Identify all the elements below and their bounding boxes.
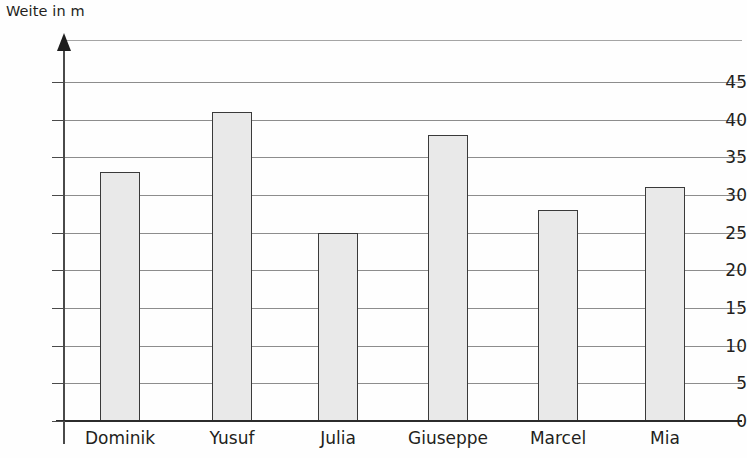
- y-axis-tick-label: 5: [701, 373, 747, 393]
- gridline: [64, 383, 742, 384]
- y-axis-tick-label: 35: [701, 147, 747, 167]
- bar: [212, 112, 252, 421]
- y-axis-tick: [52, 82, 65, 83]
- x-axis-line: [56, 420, 742, 422]
- bar: [428, 135, 468, 421]
- gridline: [64, 346, 742, 347]
- y-axis-tick: [52, 233, 65, 234]
- plot-area: [64, 40, 742, 421]
- y-axis-tick: [52, 270, 65, 271]
- x-axis-tick-label: Marcel: [530, 428, 586, 448]
- y-axis-tick-label: 25: [701, 223, 747, 243]
- gridline: [64, 270, 742, 271]
- y-axis-tick: [52, 157, 65, 158]
- gridline-top: [64, 40, 742, 41]
- x-axis-tick-label: Yusuf: [210, 428, 255, 448]
- x-axis-tick-label: Giuseppe: [408, 428, 488, 448]
- gridline: [64, 82, 742, 83]
- gridline: [64, 157, 742, 158]
- y-axis-tick-label: 40: [701, 110, 747, 130]
- y-axis-tick: [52, 383, 65, 384]
- y-axis-tick-label: 30: [701, 185, 747, 205]
- y-axis-tick: [52, 346, 65, 347]
- x-axis-tick-label: Mia: [650, 428, 680, 448]
- bar: [645, 187, 685, 421]
- y-axis-tick-label: 20: [701, 260, 747, 280]
- y-axis-tick: [52, 421, 65, 422]
- gridline: [64, 308, 742, 309]
- y-axis-tick-label: 45: [701, 72, 747, 92]
- bar: [538, 210, 578, 421]
- y-axis-arrow-icon: [57, 33, 71, 51]
- x-axis-tick-label: Dominik: [85, 428, 155, 448]
- bar-chart: Weite in m 051015202530354045 DominikYus…: [0, 0, 747, 458]
- gridline: [64, 233, 742, 234]
- bar: [100, 172, 140, 421]
- gridline: [64, 195, 742, 196]
- y-axis-tick: [52, 308, 65, 309]
- x-axis-tick-label: Julia: [320, 428, 356, 448]
- y-axis-tick-label: 15: [701, 298, 747, 318]
- bar: [318, 233, 358, 421]
- y-axis-tick: [52, 120, 65, 121]
- gridline: [64, 120, 742, 121]
- y-axis-tick: [52, 195, 65, 196]
- y-axis-title: Weite in m: [6, 3, 85, 19]
- y-axis-tick-label: 10: [701, 336, 747, 356]
- y-axis-tick-label: 0: [701, 411, 747, 431]
